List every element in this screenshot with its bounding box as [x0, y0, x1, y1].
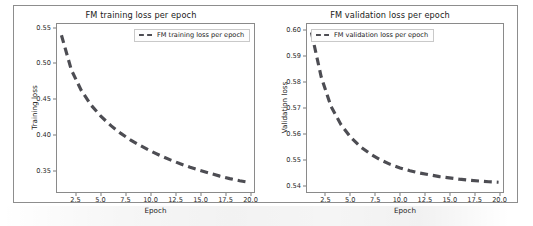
y-tick-label: 0.57 — [286, 104, 301, 112]
x-tick-label: 5.0 — [345, 196, 356, 204]
x-tick-mark — [175, 193, 176, 196]
y-tick-mark — [53, 99, 56, 100]
x-tick-label: 17.5 — [218, 196, 233, 204]
x-tick-label: 17.5 — [467, 196, 482, 204]
validation-loss-curve — [307, 24, 503, 192]
panel-validation-loss: FM validation loss per epoch 0.540.550.5… — [265, 6, 515, 202]
y-tick-mark — [303, 56, 306, 57]
y-tick-label: 0.58 — [286, 78, 301, 86]
x-tick-mark — [350, 193, 351, 196]
y-tick-label: 0.50 — [36, 59, 51, 67]
x-tick-label: 12.5 — [168, 196, 183, 204]
x-tick-mark — [325, 193, 326, 196]
x-axis-label-validation: Epoch — [306, 206, 504, 215]
training-loss-curve — [57, 24, 254, 192]
x-tick-label: 7.5 — [370, 196, 381, 204]
x-tick-mark — [250, 193, 251, 196]
plot-area-validation — [306, 23, 504, 193]
x-axis-label-training: Epoch — [56, 206, 255, 215]
legend-validation: FM validation loss per epoch — [311, 29, 434, 42]
x-tick-label: 15.0 — [442, 196, 457, 204]
x-tick-label: 10.0 — [393, 196, 408, 204]
plot-clip-training — [57, 24, 254, 192]
x-tick-mark — [75, 193, 76, 196]
y-tick-mark — [303, 133, 306, 134]
chart-title-validation: FM validation loss per epoch — [265, 10, 515, 20]
y-tick-mark — [303, 185, 306, 186]
x-tick-label: 2.5 — [320, 196, 331, 204]
x-tick-mark — [225, 193, 226, 196]
x-tick-mark — [150, 193, 151, 196]
x-tick-label: 5.0 — [95, 196, 106, 204]
figure-frame: FM training loss per epoch 0.350.400.450… — [13, 5, 518, 203]
legend-label-validation: FM validation loss per epoch — [334, 32, 428, 39]
x-tick-label: 12.5 — [418, 196, 433, 204]
y-tick-mark — [303, 82, 306, 83]
legend-line-swatch-icon — [139, 34, 152, 36]
y-tick-label: 0.59 — [286, 52, 301, 60]
y-tick-label: 0.60 — [286, 26, 301, 34]
y-tick-mark — [53, 134, 56, 135]
y-tick-label: 0.54 — [286, 182, 301, 190]
x-tick-mark — [375, 193, 376, 196]
plot-area-training — [56, 23, 255, 193]
x-tick-mark — [474, 193, 475, 196]
y-tick-label: 0.40 — [36, 131, 51, 139]
y-tick-mark — [53, 170, 56, 171]
x-tick-mark — [424, 193, 425, 196]
x-tick-label: 10.0 — [143, 196, 158, 204]
x-tick-mark — [449, 193, 450, 196]
y-tick-mark — [303, 159, 306, 160]
y-tick-label: 0.56 — [286, 130, 301, 138]
figure-screenshot: FM training loss per epoch 0.350.400.450… — [0, 0, 533, 226]
y-tick-label: 0.55 — [36, 24, 51, 32]
panel-training-loss: FM training loss per epoch 0.350.400.450… — [16, 6, 266, 202]
plot-clip-validation — [307, 24, 503, 192]
legend-label-training: FM training loss per epoch — [157, 32, 244, 39]
y-tick-mark — [53, 27, 56, 28]
y-tick-label: 0.45 — [36, 95, 51, 103]
y-tick-mark — [53, 63, 56, 64]
x-tick-mark — [200, 193, 201, 196]
x-tick-label: 2.5 — [70, 196, 81, 204]
y-axis-label-training: Training loss — [30, 78, 39, 138]
legend-line-swatch-icon — [316, 34, 329, 36]
x-tick-label: 7.5 — [120, 196, 131, 204]
x-tick-mark — [400, 193, 401, 196]
y-tick-mark — [303, 30, 306, 31]
x-tick-label: 15.0 — [193, 196, 208, 204]
legend-training: FM training loss per epoch — [134, 29, 250, 42]
x-tick-label: 20.0 — [243, 196, 258, 204]
x-tick-mark — [100, 193, 101, 196]
y-tick-mark — [303, 108, 306, 109]
x-tick-mark — [499, 193, 500, 196]
x-tick-mark — [125, 193, 126, 196]
chart-title-training: FM training loss per epoch — [16, 10, 266, 20]
y-tick-label: 0.55 — [286, 156, 301, 164]
y-axis-label-validation: Validation loss — [280, 78, 289, 138]
x-tick-label: 20.0 — [492, 196, 507, 204]
y-tick-label: 0.35 — [36, 167, 51, 175]
